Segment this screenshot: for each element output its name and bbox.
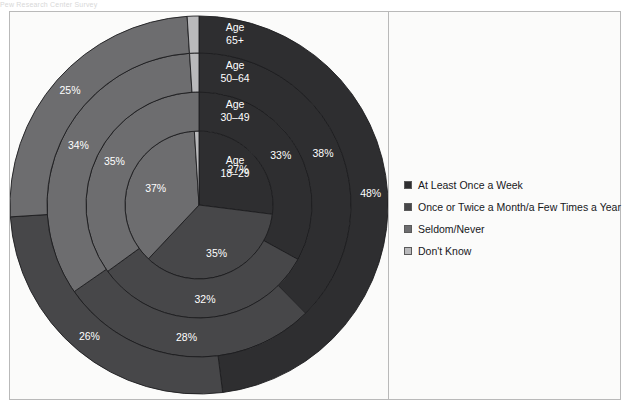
ring-age-label-line1: Age <box>226 59 245 71</box>
legend-label-3: Don't Know <box>418 245 471 257</box>
ring-age-label-line1: Age <box>226 154 245 166</box>
chart-legend: At Least Once a Week Once or Twice a Mon… <box>398 12 620 399</box>
ring-age-label-line2: 18–29 <box>220 167 249 179</box>
legend-item-3[interactable]: Don't Know <box>404 244 471 258</box>
slice-percentage-label: 28% <box>176 331 197 343</box>
legend-item-0[interactable]: At Least Once a Week <box>404 178 523 192</box>
legend-swatch-dont-know <box>404 247 412 255</box>
slice-percentage-label: 26% <box>79 330 100 342</box>
legend-label-1: Once or Twice a Month/a Few Times a Year <box>418 201 621 213</box>
legend-swatch-at-least-once-a-week <box>404 181 412 189</box>
legend-label-0: At Least Once a Week <box>418 179 523 191</box>
chart-plot-area: 27%35%37%Age18–2933%32%35%Age30–4938%28%… <box>10 12 388 399</box>
slice-percentage-label: 25% <box>59 84 80 96</box>
slice-percentage-label: 38% <box>312 147 333 159</box>
legend-swatch-once-or-twice <box>404 203 412 211</box>
figure-frame: 27%35%37%Age18–2933%32%35%Age30–4938%28%… <box>9 11 621 400</box>
sunburst-chart: 27%35%37%Age18–2933%32%35%Age30–4938%28%… <box>10 12 388 399</box>
ring-age-label: Age65+ <box>226 21 245 46</box>
ring-age-label-line2: 65+ <box>226 34 244 46</box>
slice-percentage-label: 33% <box>270 149 291 161</box>
slice-percentage-label: 48% <box>360 187 381 199</box>
pie-slice[interactable] <box>187 16 199 53</box>
slice-percentage-label: 32% <box>194 293 215 305</box>
slice-percentage-label: 35% <box>206 247 227 259</box>
ring-age-label-line1: Age <box>226 21 245 33</box>
slice-percentage-label: 35% <box>104 155 125 167</box>
panel-divider <box>388 12 389 399</box>
top-caption: Pew Research Center Survey <box>0 0 300 9</box>
slice-percentage-label: 34% <box>68 139 89 151</box>
slice-percentage-label: 37% <box>145 182 166 194</box>
legend-item-2[interactable]: Seldom/Never <box>404 222 485 236</box>
legend-label-2: Seldom/Never <box>418 223 485 235</box>
legend-swatch-seldom-never <box>404 225 412 233</box>
ring-age-label-line2: 50–64 <box>220 72 249 84</box>
ring-age-label-line2: 30–49 <box>220 111 249 123</box>
legend-item-1[interactable]: Once or Twice a Month/a Few Times a Year <box>404 200 621 214</box>
